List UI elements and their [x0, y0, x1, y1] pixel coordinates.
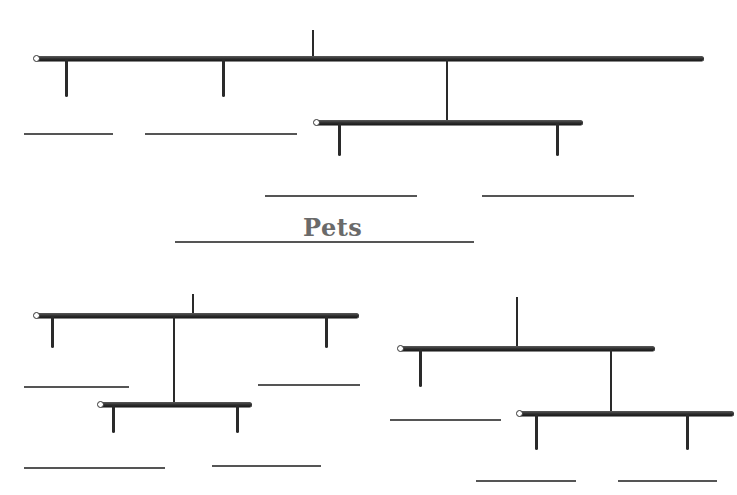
- hook: [236, 405, 239, 433]
- title-blank[interactable]: [175, 241, 474, 243]
- hook: [65, 59, 68, 97]
- hook: [686, 414, 689, 450]
- hook: [112, 405, 115, 433]
- answer-blank[interactable]: [390, 419, 501, 421]
- answer-blank[interactable]: [24, 467, 165, 469]
- top-sub-rod: [316, 120, 583, 125]
- connector-string: [173, 316, 175, 404]
- page-title: Pets: [303, 213, 362, 242]
- top-hanging-string: [312, 30, 314, 59]
- answer-blank[interactable]: [145, 133, 297, 135]
- answer-blank[interactable]: [618, 480, 717, 482]
- top-main-rod: [36, 56, 704, 61]
- answer-blank[interactable]: [482, 195, 634, 197]
- answer-blank[interactable]: [476, 480, 576, 482]
- hook: [338, 123, 341, 156]
- hook: [51, 316, 54, 348]
- answer-blank[interactable]: [212, 465, 321, 467]
- main-rod: [400, 346, 655, 351]
- hook: [419, 349, 422, 387]
- hook: [556, 123, 559, 156]
- sub-rod: [100, 402, 252, 407]
- main-rod: [36, 313, 359, 318]
- top-hanging-string: [516, 297, 518, 349]
- connector-string: [610, 349, 612, 414]
- hook: [222, 59, 225, 97]
- answer-blank[interactable]: [24, 133, 113, 135]
- answer-blank[interactable]: [258, 384, 360, 386]
- connector-string: [446, 59, 448, 123]
- answer-blank[interactable]: [24, 386, 129, 388]
- hook: [325, 316, 328, 348]
- hook: [535, 414, 538, 450]
- answer-blank[interactable]: [265, 195, 417, 197]
- sub-rod: [519, 411, 734, 416]
